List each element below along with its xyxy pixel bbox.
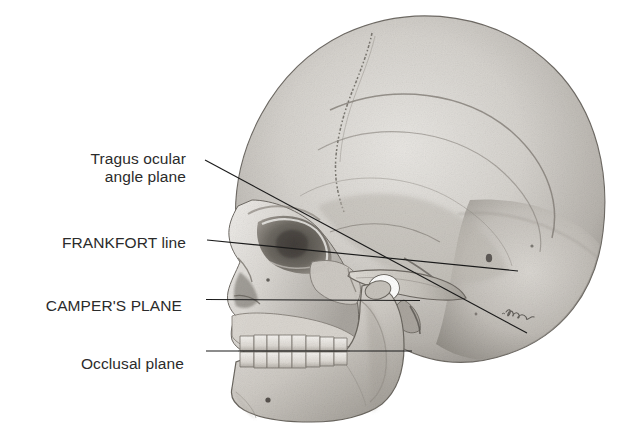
maxillary-teeth bbox=[240, 335, 347, 351]
label-campers-plane: CAMPER'S PLANE bbox=[0, 297, 182, 315]
mandibular-teeth bbox=[240, 352, 347, 368]
skull-reference-planes-figure: Tragus ocular angle plane FRANKFORT line… bbox=[0, 0, 627, 438]
infraorbital-foramen bbox=[266, 278, 270, 282]
label-frankfort-line: FRANKFORT line bbox=[0, 234, 186, 252]
mental-foramen bbox=[265, 397, 270, 402]
label-tragus-ocular-angle-plane: Tragus ocular angle plane bbox=[0, 150, 186, 186]
label-occlusal-plane: Occlusal plane bbox=[0, 355, 184, 373]
